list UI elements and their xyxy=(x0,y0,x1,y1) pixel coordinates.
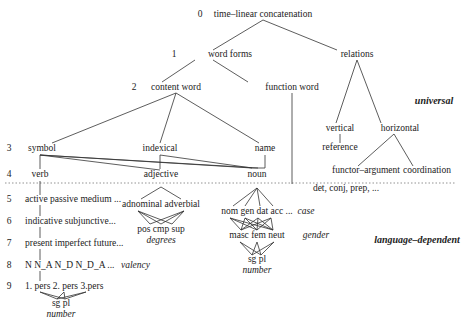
tree-edge xyxy=(160,93,176,143)
node-symbol: symbol xyxy=(28,144,56,154)
tree-edge xyxy=(138,211,161,224)
node-gender-values: masc fem neut xyxy=(229,231,284,241)
tree-edge xyxy=(358,134,394,166)
node-verb-number-values: sg pl xyxy=(52,299,70,309)
node-verb: verb xyxy=(32,170,49,180)
node-noun-number-values: sg pl xyxy=(248,255,266,265)
level-marker-0: 0 xyxy=(198,10,203,20)
tree-edge xyxy=(233,188,257,206)
node-gender: gender xyxy=(303,231,329,241)
node-verb-number: number xyxy=(46,310,75,320)
node-degree-values: pos cmp sup xyxy=(137,225,185,235)
region-label-lower: language–dependent xyxy=(374,235,460,245)
node-name: name xyxy=(255,144,276,154)
level-marker-3: 3 xyxy=(7,144,12,154)
tree-edge xyxy=(160,155,252,168)
node-word-forms: word forms xyxy=(208,50,252,60)
diagram-canvas: time–linear concatenationword formsrelat… xyxy=(0,0,461,326)
tree-edge xyxy=(252,242,257,255)
node-indexical: indexical xyxy=(143,144,178,154)
tree-edge xyxy=(245,188,257,206)
level-marker-5: 5 xyxy=(7,195,12,205)
node-function-word: function word xyxy=(265,83,319,93)
node-mood: indicative subjunctive... xyxy=(25,217,116,227)
tree-edge xyxy=(357,60,381,123)
tree-edge xyxy=(394,134,413,166)
node-relations: relations xyxy=(341,50,374,60)
level-marker-7: 7 xyxy=(7,239,12,249)
tree-edge xyxy=(213,60,248,82)
node-valency-values: N N_A N_D N_D_A ... xyxy=(25,261,114,271)
tree-edge xyxy=(52,93,176,143)
tree-edge xyxy=(161,187,181,199)
node-case: case xyxy=(298,207,315,217)
node-voice: active passive medium ... xyxy=(25,195,121,205)
node-horizontal: horizontal xyxy=(381,124,420,134)
level-marker-2: 2 xyxy=(132,83,137,93)
node-reference: reference xyxy=(322,143,357,153)
node-tense: present imperfect future... xyxy=(25,239,123,249)
node-degrees: degrees xyxy=(146,236,175,246)
tree-edge xyxy=(141,187,161,199)
level-marker-8: 8 xyxy=(7,261,12,271)
tree-edge xyxy=(40,155,160,170)
tree-edge xyxy=(257,218,258,230)
node-root: time–linear concatenation xyxy=(214,10,312,20)
node-noun: noun xyxy=(248,170,267,180)
node-coordination: coordination xyxy=(403,166,451,176)
node-valency: valency xyxy=(121,261,150,271)
tree-edge xyxy=(176,93,259,143)
tree-edge xyxy=(40,155,252,168)
node-adjective: adjective xyxy=(144,170,178,180)
tree-edge xyxy=(162,60,195,82)
tree-edge xyxy=(161,211,184,224)
node-det-conj-prep: det, conj, prep, ... xyxy=(313,184,379,194)
level-marker-6: 6 xyxy=(7,217,12,227)
level-marker-4: 4 xyxy=(7,170,12,180)
tree-edge xyxy=(213,20,263,50)
node-content-word: content word xyxy=(151,83,201,93)
node-case-values: nom gen dat acc ... xyxy=(221,207,293,217)
node-noun-number: number xyxy=(242,266,271,276)
tree-edge xyxy=(336,60,357,123)
level-marker-9: 9 xyxy=(7,282,12,292)
level-marker-1: 1 xyxy=(172,50,177,60)
node-vertical: vertical xyxy=(326,124,354,134)
node-adnominal-adverbial: adnominal adverbial xyxy=(122,200,200,210)
tree-edge xyxy=(263,20,337,50)
node-functor-argument: functor–argument xyxy=(332,166,400,176)
node-person: 1. pers 2. pers 3.pers xyxy=(25,282,103,292)
region-label-upper: universal xyxy=(415,96,453,106)
